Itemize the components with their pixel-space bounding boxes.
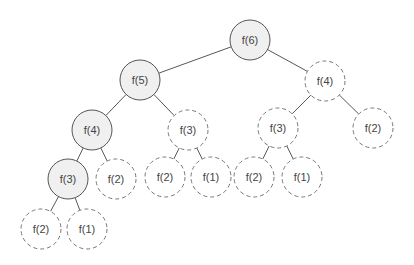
tree-edge [154, 94, 174, 115]
node-label: f(2) [246, 171, 263, 183]
tree-node-repeated: f(2) [234, 157, 274, 197]
tree-node-repeated: f(2) [21, 209, 61, 249]
tree-edge [197, 148, 202, 159]
node-label: f(1) [203, 171, 220, 183]
node-label: f(3) [180, 124, 197, 136]
tree-nodes: f(6)f(5)f(4)f(4)f(3)f(3)f(2)f(3)f(2)f(2)… [21, 20, 393, 249]
tree-node-repeated: f(3) [258, 108, 298, 148]
node-label: f(3) [270, 122, 287, 134]
tree-edge [77, 148, 83, 161]
node-label: f(4) [317, 75, 334, 87]
tree-edge [159, 47, 231, 73]
tree-node-computed: f(6) [230, 20, 270, 60]
tree-edge [287, 146, 293, 159]
tree-edge [106, 94, 126, 115]
node-label: f(2) [157, 171, 174, 183]
tree-edge [339, 95, 358, 114]
tree-edge [292, 95, 311, 114]
tree-edge [263, 146, 269, 159]
node-label: f(6) [242, 34, 259, 46]
tree-node-repeated: f(2) [353, 108, 393, 148]
tree-edge [101, 148, 107, 161]
tree-node-computed: f(5) [120, 60, 160, 100]
tree-node-repeated: f(2) [96, 159, 136, 199]
node-label: f(5) [132, 74, 149, 86]
node-label: f(4) [84, 124, 101, 136]
tree-node-computed: f(3) [48, 159, 88, 199]
tree-node-repeated: f(1) [67, 209, 107, 249]
tree-node-repeated: f(4) [305, 61, 345, 101]
node-label: f(1) [294, 171, 311, 183]
tree-node-repeated: f(2) [145, 157, 185, 197]
tree-node-repeated: f(1) [282, 157, 322, 197]
node-label: f(2) [33, 223, 50, 235]
node-label: f(3) [60, 173, 77, 185]
tree-node-repeated: f(1) [191, 157, 231, 197]
tree-edge [51, 197, 59, 212]
tree-edge [268, 50, 308, 72]
tree-node-computed: f(4) [72, 110, 112, 150]
recursion-tree-diagram: f(6)f(5)f(4)f(4)f(3)f(3)f(2)f(3)f(2)f(2)… [0, 0, 414, 265]
node-label: f(2) [365, 122, 382, 134]
tree-node-repeated: f(3) [168, 110, 208, 150]
tree-edge [75, 198, 80, 211]
tree-edge [174, 148, 179, 159]
node-label: f(1) [79, 223, 96, 235]
node-label: f(2) [108, 173, 125, 185]
